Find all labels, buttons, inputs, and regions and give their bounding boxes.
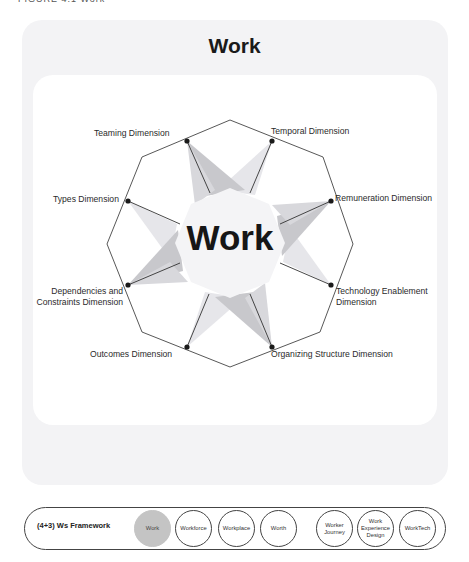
label-dependencies-line1: Dependencies and xyxy=(29,286,123,297)
framework-item-worktech[interactable]: WorkTech xyxy=(399,510,436,547)
framework-item-label: WorkTech xyxy=(405,525,431,532)
framework-item-label: Work Experience Design xyxy=(361,518,390,539)
framework-item-work[interactable]: Work xyxy=(134,510,171,547)
label-line: Design xyxy=(366,532,384,538)
framework-item-label: Workplace xyxy=(223,525,250,532)
label-remuneration: Remuneration Dimension xyxy=(335,193,432,204)
dot-remuneration xyxy=(328,198,333,203)
label-line: Work xyxy=(369,518,382,524)
label-line: Worker xyxy=(325,522,344,528)
framework-item-worker-journey[interactable]: Worker Journey xyxy=(316,510,353,547)
framework-item-workplace[interactable]: Workplace xyxy=(218,510,255,547)
label-outcomes: Outcomes Dimension xyxy=(90,349,172,360)
label-technology: Technology Enablement Dimension xyxy=(336,286,428,308)
dot-types xyxy=(125,198,130,203)
label-organizing: Organizing Structure Dimension xyxy=(271,349,393,360)
framework-item-label: Workforce xyxy=(180,525,206,532)
framework-nav: (4+3) Ws Framework Work Workforce Workpl… xyxy=(24,507,446,550)
dot-technology xyxy=(328,282,333,287)
label-dependencies-line2: Constraints Dimension xyxy=(29,297,123,308)
dimension-star-diagram xyxy=(0,0,469,562)
label-line: Experience xyxy=(361,525,390,531)
framework-item-label: Work xyxy=(146,525,159,532)
dot-outcomes xyxy=(184,344,189,349)
dot-teaming xyxy=(184,138,189,143)
label-dependencies: Dependencies and Constraints Dimension xyxy=(29,286,123,308)
label-technology-line2: Dimension xyxy=(336,297,428,308)
framework-item-worth[interactable]: Worth xyxy=(260,510,297,547)
framework-item-workforce[interactable]: Workforce xyxy=(175,510,212,547)
center-label: Work xyxy=(170,218,290,258)
label-line: Journey xyxy=(324,529,345,535)
label-teaming: Teaming Dimension xyxy=(94,128,169,139)
framework-item-label: Worker Journey xyxy=(324,522,345,536)
label-types: Types Dimension xyxy=(53,194,119,205)
label-temporal: Temporal Dimension xyxy=(271,126,349,137)
framework-label: (4+3) Ws Framework xyxy=(37,521,110,530)
label-technology-line1: Technology Enablement xyxy=(336,286,428,297)
framework-item-label: Worth xyxy=(271,525,286,532)
framework-item-work-experience-design[interactable]: Work Experience Design xyxy=(357,510,394,547)
dot-dependencies xyxy=(125,282,130,287)
dot-temporal xyxy=(269,138,274,143)
